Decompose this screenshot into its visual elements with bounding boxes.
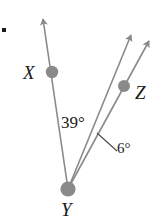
point-Z-dot bbox=[118, 80, 130, 92]
point-label-y: Y bbox=[61, 200, 72, 219]
geometry-canvas bbox=[0, 0, 159, 219]
point-label-z: Z bbox=[135, 83, 146, 102]
point-label-x: X bbox=[23, 63, 35, 82]
geometry-figure: X Z Y 39° 6° bbox=[0, 0, 159, 219]
angle-label-6: 6° bbox=[117, 141, 131, 156]
point-X-dot bbox=[46, 66, 58, 78]
angle-zyw-leader-line bbox=[97, 133, 117, 151]
point-Y-vertex-dot bbox=[60, 181, 75, 196]
angle-label-39: 39° bbox=[61, 114, 85, 131]
ray-YZ bbox=[68, 35, 131, 189]
ray-YX bbox=[43, 19, 68, 189]
